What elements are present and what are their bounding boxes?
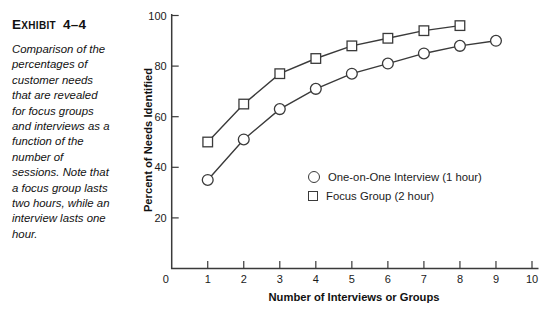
x-tick-label: 9: [493, 273, 499, 285]
data-point-square: [419, 26, 429, 36]
data-point-square: [311, 54, 321, 64]
x-tick-label: 4: [313, 273, 319, 285]
legend-label-focus-group: Focus Group (2 hour): [326, 190, 434, 202]
data-point-circle: [238, 134, 249, 145]
square-marker-icon: [308, 191, 318, 201]
x-tick-label: 7: [421, 273, 427, 285]
data-point-circle: [455, 40, 466, 51]
data-point-circle: [346, 68, 357, 79]
legend-item-interview: One-on-One Interview (1 hour): [308, 167, 482, 186]
data-point-circle: [310, 83, 321, 94]
data-point-circle: [491, 35, 502, 46]
y-tick-label: 40: [154, 161, 166, 173]
axes: [172, 14, 539, 269]
data-point-circle: [274, 104, 285, 115]
x-tick-label: 1: [205, 273, 211, 285]
y-tick-label: 80: [154, 60, 166, 72]
data-point-square: [347, 41, 357, 51]
data-point-square: [239, 99, 249, 109]
data-point-circle: [419, 48, 430, 59]
x-tick-label: 6: [385, 273, 391, 285]
x-axis-title: Number of Interviews or Groups: [269, 291, 440, 303]
data-point-circle: [382, 58, 393, 69]
chart-canvas: 20406080100012345678910: [0, 0, 545, 311]
exhibit-page: EXHIBIT 4–4 Comparison of thepercentages…: [0, 0, 545, 311]
x-tick-label: 3: [277, 273, 283, 285]
data-point-circle: [202, 175, 213, 186]
x-tick-label: 2: [241, 273, 247, 285]
y-tick-label: 60: [154, 111, 166, 123]
series-line-1: [208, 26, 460, 142]
circle-marker-icon: [308, 171, 320, 183]
legend-label-interview: One-on-One Interview (1 hour): [328, 171, 482, 183]
y-tick-label: 100: [148, 10, 166, 22]
x-tick-label: 0: [163, 273, 169, 285]
series-line-0: [208, 41, 496, 180]
x-tick-label: 5: [349, 273, 355, 285]
legend-item-focus-group: Focus Group (2 hour): [308, 186, 482, 205]
chart-legend: One-on-One Interview (1 hour) Focus Grou…: [308, 167, 482, 205]
data-point-square: [455, 21, 465, 31]
y-axis-title: Percent of Needs Identified: [142, 68, 154, 212]
y-tick-label: 20: [154, 212, 166, 224]
data-point-square: [383, 33, 393, 43]
x-tick-label: 8: [457, 273, 463, 285]
x-tick-label: 10: [526, 273, 538, 285]
data-point-square: [275, 69, 285, 79]
data-point-square: [203, 137, 213, 147]
